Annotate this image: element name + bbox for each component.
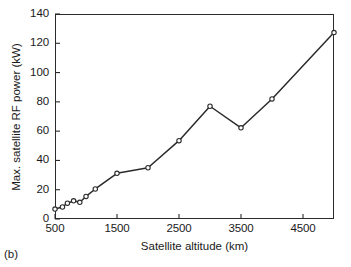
x-tick-label: 2500 xyxy=(166,223,191,235)
figure-panel: 020406080100120140 5001500250035004500 M… xyxy=(0,0,351,267)
y-axis-title: Max. satellite RF power (kW) xyxy=(9,15,23,220)
panel-caption: (b) xyxy=(4,248,18,260)
x-tick-label: 4500 xyxy=(290,223,315,235)
y-axis-tick-labels: 020406080100120140 xyxy=(0,0,49,267)
x-tick-label: 3500 xyxy=(228,223,253,235)
plot-area xyxy=(55,14,334,219)
x-axis-title: Satellite altitude (km) xyxy=(55,240,334,252)
x-tick-label: 500 xyxy=(46,223,65,235)
y-axis-title-container: Max. satellite RF power (kW) xyxy=(9,15,23,220)
x-tick-label: 1500 xyxy=(104,223,129,235)
